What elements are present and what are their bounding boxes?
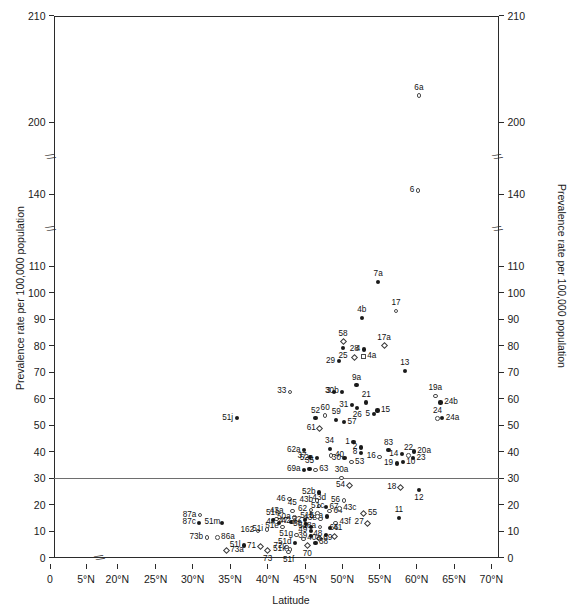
y-tick-label: 140 xyxy=(12,188,46,200)
y-tick-mark xyxy=(499,122,504,123)
data-point-label: 57 xyxy=(347,418,356,426)
data-point xyxy=(265,527,270,532)
data-point-label: 71 xyxy=(247,542,256,550)
x-tick-mark xyxy=(86,564,87,569)
data-point-label: 54 xyxy=(336,481,345,489)
data-point-label: 45 xyxy=(288,499,297,507)
data-point-label: 83 xyxy=(384,439,393,447)
data-point-label: 70 xyxy=(303,550,312,558)
data-point-label: 60 xyxy=(321,404,330,412)
data-point xyxy=(360,316,364,320)
y-tick-label: 70 xyxy=(508,366,542,378)
data-point xyxy=(397,516,401,520)
data-point xyxy=(417,93,422,98)
data-point-label: 23 xyxy=(417,454,426,462)
y-tick-label: 80 xyxy=(12,340,46,352)
y-tick-label: 90 xyxy=(12,313,46,325)
y-tick-label: 210 xyxy=(508,10,542,22)
data-point-label: 18 xyxy=(387,483,396,491)
y-tick-mark xyxy=(499,478,504,479)
data-point-label: 17 xyxy=(391,299,400,307)
y-tick-mark xyxy=(49,372,54,373)
data-point xyxy=(403,369,407,373)
y-tick-label: 50 xyxy=(508,419,542,431)
y-tick-label: 10 xyxy=(12,525,46,537)
data-point-label: 51f xyxy=(282,556,296,564)
y-tick-mark xyxy=(499,451,504,452)
data-point-label: 15 xyxy=(381,406,390,414)
data-point xyxy=(375,408,379,412)
y-tick-mark xyxy=(499,531,504,532)
y-tick-label: 90 xyxy=(508,313,542,325)
data-point-label: 73b xyxy=(189,533,203,541)
plot-frame xyxy=(54,16,499,558)
y-tick-mark xyxy=(499,557,504,558)
scatter-plot-figure: Prevalence rate per 100,000 population P… xyxy=(0,0,582,609)
y-tick-mark xyxy=(49,425,54,426)
data-point-label: 66 xyxy=(330,524,339,532)
y-tick-label: 80 xyxy=(508,340,542,352)
data-point xyxy=(362,347,366,351)
y-tick-mark xyxy=(499,194,504,195)
data-point-label: 13 xyxy=(400,359,409,367)
x-tick-mark xyxy=(416,564,417,569)
data-point-label: 12 xyxy=(414,494,423,502)
y-tick-mark xyxy=(49,319,54,320)
y-tick-mark xyxy=(499,15,504,16)
data-point xyxy=(220,521,224,525)
data-point xyxy=(377,455,382,460)
y-tick-label: 60 xyxy=(508,393,542,405)
data-point-label: 43c xyxy=(343,504,357,512)
data-point-label: 51i xyxy=(249,525,263,533)
data-point xyxy=(342,456,346,460)
data-point xyxy=(328,447,332,451)
data-point-label: 17a xyxy=(377,334,391,342)
y-tick-label: 100 xyxy=(508,287,542,299)
data-point xyxy=(359,451,363,455)
y-tick-mark xyxy=(49,345,54,346)
data-point-label: 19a xyxy=(428,384,442,392)
data-point xyxy=(361,354,366,359)
data-point-label: 87c xyxy=(182,518,196,526)
data-point-label: 30a xyxy=(335,466,349,474)
y-tick-mark xyxy=(499,345,504,346)
data-point xyxy=(313,541,317,545)
data-point-label: 55 xyxy=(368,509,377,517)
x-tick-mark xyxy=(192,564,193,569)
data-point xyxy=(359,445,363,449)
y-tick-mark xyxy=(49,557,54,558)
data-point-label: 10 xyxy=(406,458,415,466)
x-tick-label: 70°N xyxy=(465,573,517,585)
y-tick-label: 140 xyxy=(508,188,542,200)
y-tick-label: 200 xyxy=(508,116,542,128)
data-point-label: 11 xyxy=(394,506,403,514)
data-point-label: 8 xyxy=(349,448,357,456)
y-tick-mark xyxy=(49,194,54,195)
x-tick-mark xyxy=(230,564,231,569)
data-point-label: 51b xyxy=(300,512,314,520)
y-tick-mark xyxy=(499,425,504,426)
y-tick-label: 30 xyxy=(508,472,542,484)
y-tick-mark xyxy=(49,451,54,452)
x-tick-mark xyxy=(267,564,268,569)
data-point-label: 51k xyxy=(272,545,286,553)
y-tick-label: 0 xyxy=(12,552,46,564)
data-point-label: 73a xyxy=(230,546,244,554)
y-tick-label: 110 xyxy=(508,260,542,272)
x-tick-mark xyxy=(305,564,306,569)
data-point-label: 51h xyxy=(266,509,280,517)
y-tick-mark xyxy=(499,319,504,320)
x-tick-mark xyxy=(379,564,380,569)
y-tick-label: 60 xyxy=(12,393,46,405)
data-point-label: 9a xyxy=(352,374,361,382)
y-tick-label: 200 xyxy=(12,116,46,128)
data-point-label: 16 xyxy=(367,452,376,460)
y-tick-label: 20 xyxy=(508,499,542,511)
data-point-label: 52 xyxy=(311,407,320,415)
data-point-label: 30 xyxy=(332,454,341,462)
y-tick-mark xyxy=(499,398,504,399)
data-point-label: 61 xyxy=(307,424,316,432)
data-point-label: 51j xyxy=(219,414,233,422)
y-tick-label: 20 xyxy=(12,499,46,511)
x-tick-mark xyxy=(117,564,118,569)
